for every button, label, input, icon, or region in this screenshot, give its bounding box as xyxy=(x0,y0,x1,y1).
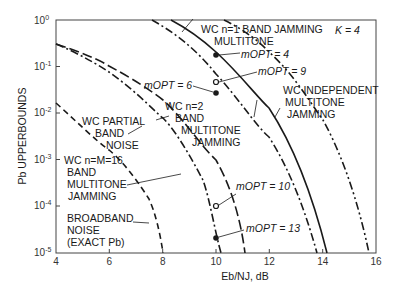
label-m13: mOPT = 13 xyxy=(246,222,300,234)
label-m4: mOPT = 4 xyxy=(241,48,289,60)
label-pbn-line2: BAND xyxy=(95,127,125,139)
label-indep-line2: MULTITONE xyxy=(285,96,345,108)
svg-text:16: 16 xyxy=(370,256,382,267)
x-axis xyxy=(109,249,322,253)
label-n2-line3: MULTITONE xyxy=(181,124,241,136)
point-m13 xyxy=(213,235,219,241)
label-m6: mOPT = 6 xyxy=(144,79,192,91)
label-bb-line1: BROADBAND xyxy=(67,212,134,224)
label-indep-line3: JAMMING xyxy=(287,108,335,120)
y-tick-0: 100 xyxy=(34,14,49,26)
label-n2-line1: WC n=2 xyxy=(165,100,203,112)
chart-canvas: 100 10-1 10-2 10-3 10-4 10-5 4 6 8 10 12… xyxy=(0,0,397,293)
svg-text:4: 4 xyxy=(53,256,59,267)
svg-text:8: 8 xyxy=(160,256,166,267)
label-n2-line2: BAND xyxy=(175,112,205,124)
svg-text:10: 10 xyxy=(210,256,222,267)
x-axis-title: Eb/NJ, dB xyxy=(221,270,268,282)
label-n16-line4: JAMMING xyxy=(68,190,116,202)
label-pbn-line3: NOISE xyxy=(106,139,139,151)
k-label: K = 4 xyxy=(335,24,360,36)
label-bb-line3: (EXACT Pb) xyxy=(67,236,125,248)
label-n16-line3: MULTITONE xyxy=(67,178,127,190)
label-n1-line2: MULTITONE xyxy=(214,35,274,47)
point-m10 xyxy=(214,204,219,209)
label-n1-line1: WC n=1 BAND JAMMING xyxy=(201,23,323,35)
label-bb-line2: NOISE xyxy=(67,224,100,236)
y-tick-1: 10-1 xyxy=(34,60,51,72)
label-m9: mOPT = 9 xyxy=(258,65,306,77)
svg-text:12: 12 xyxy=(264,256,276,267)
y-axis-title: Pb UPPERBOUNDS xyxy=(16,88,28,185)
x-tick-labels: 4 6 8 10 12 14 16 xyxy=(53,256,382,267)
label-pbn-line1: WC PARTIAL xyxy=(82,115,145,127)
point-m6 xyxy=(213,90,219,96)
y-axis xyxy=(56,67,60,207)
svg-text:6: 6 xyxy=(107,256,113,267)
y-tick-2: 10-2 xyxy=(34,106,51,118)
svg-text:14: 14 xyxy=(317,256,329,267)
point-m4 xyxy=(213,52,219,58)
label-n2-line4: JAMMING xyxy=(192,136,240,148)
label-indep-line1: WC INDEPENDENT xyxy=(283,84,379,96)
label-n16-line1: WC n=M=16 xyxy=(64,154,123,166)
y-tick-labels: 100 10-1 10-2 10-3 10-4 10-5 xyxy=(34,14,51,258)
point-m9 xyxy=(214,80,219,85)
label-m10: mOPT = 10 xyxy=(236,180,290,192)
y-tick-4: 10-4 xyxy=(34,199,51,211)
y-tick-3: 10-3 xyxy=(34,153,51,165)
y-tick-5: 10-5 xyxy=(34,246,51,258)
label-n16-line2: BAND xyxy=(67,166,97,178)
